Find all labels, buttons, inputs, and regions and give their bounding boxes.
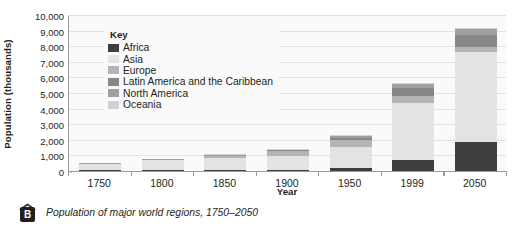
- bar-1999: [392, 83, 434, 172]
- bar-segment-asia: [79, 164, 121, 170]
- legend-item: Latin America and the Caribbean: [108, 76, 273, 87]
- bar-segment-north-america: [455, 29, 497, 35]
- bar-segment-europe: [330, 140, 372, 146]
- y-axis-tick-label: 10,000: [22, 11, 64, 22]
- bar-segment-north-america: [330, 135, 372, 138]
- legend-item: Asia: [108, 53, 273, 64]
- legend: Key AfricaAsiaEuropeLatin America and th…: [104, 26, 279, 113]
- figure-caption-text: Population of major world regions, 1750–…: [46, 207, 258, 218]
- legend-item-label: Africa: [123, 42, 149, 53]
- legend-swatch-icon: [108, 101, 119, 109]
- x-axis-tick-mark: [256, 172, 257, 176]
- bar-segment-asia: [330, 147, 372, 169]
- bar-segment-latin-america-and-the-caribbean: [330, 138, 372, 141]
- bar-segment-asia: [392, 103, 434, 160]
- x-axis-tick-mark: [193, 172, 194, 176]
- legend-item-label: Oceania: [123, 99, 161, 110]
- legend-item: Africa: [108, 42, 273, 53]
- bar-segment-europe: [267, 151, 309, 155]
- x-axis-tick-mark: [381, 172, 382, 176]
- bar-segment-europe: [392, 96, 434, 103]
- y-axis-tick-label: 3,000: [22, 120, 64, 131]
- bar-segment-latin-america-and-the-caribbean: [204, 155, 246, 156]
- x-axis-tick-mark: [68, 172, 69, 176]
- y-axis-tick-label: 5,000: [22, 89, 64, 100]
- figure-badge-label: B: [20, 207, 35, 222]
- y-axis-tick-label: 2,000: [22, 135, 64, 146]
- bar-segment-europe: [204, 156, 246, 158]
- y-axis-title: Population (thousands): [2, 16, 16, 172]
- legend-item-label: Europe: [123, 65, 156, 76]
- bar-segment-europe: [142, 159, 184, 160]
- legend-item-label: Asia: [123, 54, 143, 65]
- y-axis-tick-label: 1,000: [22, 151, 64, 162]
- y-axis-tick-label: 9,000: [22, 26, 64, 37]
- x-axis-tick-mark: [318, 172, 319, 176]
- bar-1900: [267, 149, 309, 172]
- legend-swatch-icon: [108, 89, 119, 97]
- bar-segment-europe: [455, 47, 497, 52]
- bar-segment-north-america: [267, 149, 309, 150]
- x-axis-tick-mark: [131, 172, 132, 176]
- figure-caption: B Population of major world regions, 175…: [18, 203, 258, 222]
- y-axis-tick-label: 4,000: [22, 104, 64, 115]
- bar-segment-latin-america-and-the-caribbean: [392, 88, 434, 96]
- x-axis-title: Year: [68, 186, 506, 197]
- bar-2050: [455, 28, 497, 172]
- legend-swatch-icon: [108, 78, 119, 86]
- y-axis-tick-labels: 01,0002,0003,0004,0005,0006,0007,0008,00…: [18, 16, 64, 172]
- bar-segment-asia: [204, 158, 246, 170]
- bar-segment-asia: [142, 160, 184, 170]
- bar-segment-asia: [455, 52, 497, 142]
- legend-item: North America: [108, 88, 273, 99]
- bar-segment-latin-america-and-the-caribbean: [267, 150, 309, 151]
- bar-segment-europe: [79, 163, 121, 164]
- legend-title: Key: [110, 29, 273, 40]
- y-axis-tick-label: 0: [22, 167, 64, 178]
- y-axis-tick-label: 7,000: [22, 57, 64, 68]
- y-axis-tick-label: 8,000: [22, 42, 64, 53]
- y-axis-tick-label: 6,000: [22, 73, 64, 84]
- chart-figure: Population (thousands) 01,0002,0003,0004…: [0, 0, 518, 234]
- bar-segment-asia: [267, 156, 309, 170]
- bar-segment-latin-america-and-the-caribbean: [455, 35, 497, 47]
- x-axis-tick-mark: [443, 172, 444, 176]
- legend-item: Europe: [108, 65, 273, 76]
- legend-item: Oceania: [108, 99, 273, 110]
- x-axis-tick-mark: [506, 172, 507, 176]
- legend-swatch-icon: [108, 44, 119, 52]
- legend-item-label: North America: [123, 88, 188, 99]
- bar-1850: [204, 154, 246, 172]
- bar-segment-north-america: [392, 83, 434, 88]
- legend-item-label: Latin America and the Caribbean: [123, 76, 273, 87]
- bar-1950: [330, 135, 372, 172]
- legend-swatch-icon: [108, 66, 119, 74]
- legend-swatch-icon: [108, 55, 119, 63]
- bar-segment-oceania: [455, 28, 497, 29]
- figure-badge: B: [18, 203, 37, 222]
- legend-items: AfricaAsiaEuropeLatin America and the Ca…: [108, 42, 273, 110]
- bar-segment-africa: [455, 142, 497, 172]
